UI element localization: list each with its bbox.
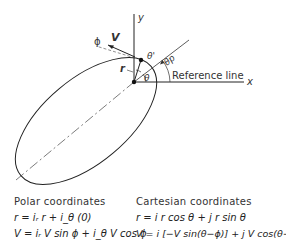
cartesian-heading: Cartesian coordinates [136, 196, 252, 207]
cartesian-v-equation: V = i [−V sin(θ−ϕ)] + j V cos(θ−ϕ) [136, 228, 286, 239]
velocity-label: V [111, 32, 120, 43]
y-axis-label: y [138, 13, 144, 23]
cartesian-r-equation: r = i r cos θ + j r sin θ [136, 212, 246, 223]
theta-prime-arc [136, 70, 141, 72]
phi-label: ϕ [94, 37, 101, 47]
polar-r-equation: r = iᵣ r + i_θ (0) [14, 212, 91, 223]
theta-prime-label: θ' [147, 52, 155, 61]
radius-label: r [120, 64, 125, 74]
major-axis-line [16, 82, 134, 180]
origin-point [132, 80, 136, 84]
velocity-arrowhead [108, 45, 114, 49]
theta-label: θ [144, 74, 150, 83]
x-axis-label: x [247, 77, 253, 87]
polar-heading: Polar coordinates [14, 196, 106, 207]
reference-line-label: Reference line [172, 71, 244, 81]
satellite-point [139, 58, 143, 62]
polar-v-equation: V = iᵣ V sin ϕ + i_θ V cos ϕ [14, 228, 147, 239]
